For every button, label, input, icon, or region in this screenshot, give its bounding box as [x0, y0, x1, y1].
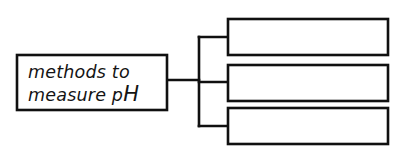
root-node-label-line1: methods to	[28, 62, 130, 82]
diagram-canvas: methods to measure pH	[0, 0, 405, 152]
branch-node-box-3[interactable]	[228, 108, 388, 144]
root-node-label-line2-prefix: measure p	[28, 85, 123, 105]
root-node-label-line2: measure pH	[28, 82, 139, 106]
connector-group	[167, 37, 229, 126]
branch-node-box-2[interactable]	[228, 65, 388, 101]
concept-map-diagram: methods to measure pH	[0, 0, 405, 152]
root-node-label-line2-suffix: H	[123, 82, 139, 106]
branch-node-box-1[interactable]	[228, 19, 388, 55]
